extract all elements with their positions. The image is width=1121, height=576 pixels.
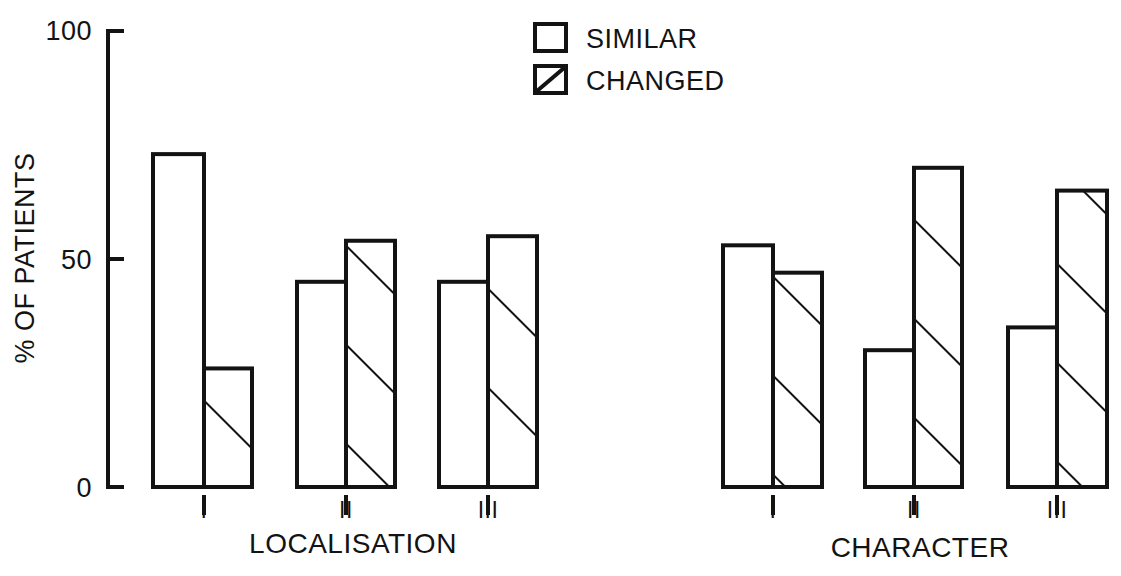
- bar-changed-character-III: [1057, 191, 1107, 487]
- bar-group-localisation-II: II: [297, 241, 395, 523]
- panel-character: I II III CHARACTER: [723, 168, 1107, 563]
- x-label-character-I: I: [770, 497, 777, 523]
- x-label-localisation-III: III: [478, 497, 499, 523]
- bar-changed-localisation-III: [488, 236, 537, 487]
- legend-item-changed: CHANGED: [535, 66, 725, 96]
- y-axis-title: % OF PATIENTS: [10, 152, 40, 363]
- bar-group-character-I: I: [723, 245, 822, 523]
- bar-similar-localisation-III: [439, 282, 488, 487]
- panel-title-character: CHARACTER: [831, 532, 1010, 563]
- bar-similar-character-II: [865, 350, 914, 487]
- x-label-localisation-I: I: [201, 497, 208, 523]
- legend-swatch-open-square: [535, 24, 566, 51]
- bar-group-localisation-I: I: [153, 154, 252, 523]
- bar-similar-character-I: [723, 245, 773, 487]
- legend: SIMILAR CHANGED: [535, 24, 725, 96]
- bar-similar-localisation-II: [297, 282, 346, 487]
- panel-title-localisation: LOCALISATION: [249, 528, 457, 559]
- bar-similar-character-III: [1008, 327, 1057, 487]
- legend-label-similar: SIMILAR: [586, 24, 698, 54]
- bar-changed-localisation-II: [346, 241, 395, 487]
- x-label-character-II: II: [907, 497, 921, 523]
- x-label-character-III: III: [1047, 497, 1068, 523]
- legend-label-changed: CHANGED: [586, 66, 725, 96]
- y-tick-label-100: 100: [45, 16, 92, 46]
- bar-group-character-II: II: [865, 168, 962, 523]
- bar-changed-localisation-I: [204, 368, 252, 487]
- bar-group-localisation-III: III: [439, 236, 537, 523]
- y-tick-label-0: 0: [76, 473, 92, 503]
- y-axis: 100 50 0 % OF PATIENTS: [10, 16, 124, 503]
- y-tick-label-50: 50: [61, 245, 92, 275]
- bar-changed-character-II: [914, 168, 962, 487]
- panel-localisation: I II III LOCALISATION: [153, 154, 537, 559]
- bar-chart: 100 50 0 % OF PATIENTS SIMILAR CHANGED: [0, 0, 1121, 576]
- bar-group-character-III: III: [1008, 191, 1107, 523]
- legend-item-similar: SIMILAR: [535, 24, 698, 54]
- chart-container: 100 50 0 % OF PATIENTS SIMILAR CHANGED: [0, 0, 1121, 576]
- bar-changed-character-I: [773, 273, 822, 487]
- bar-similar-localisation-I: [153, 154, 204, 487]
- x-label-localisation-II: II: [339, 497, 353, 523]
